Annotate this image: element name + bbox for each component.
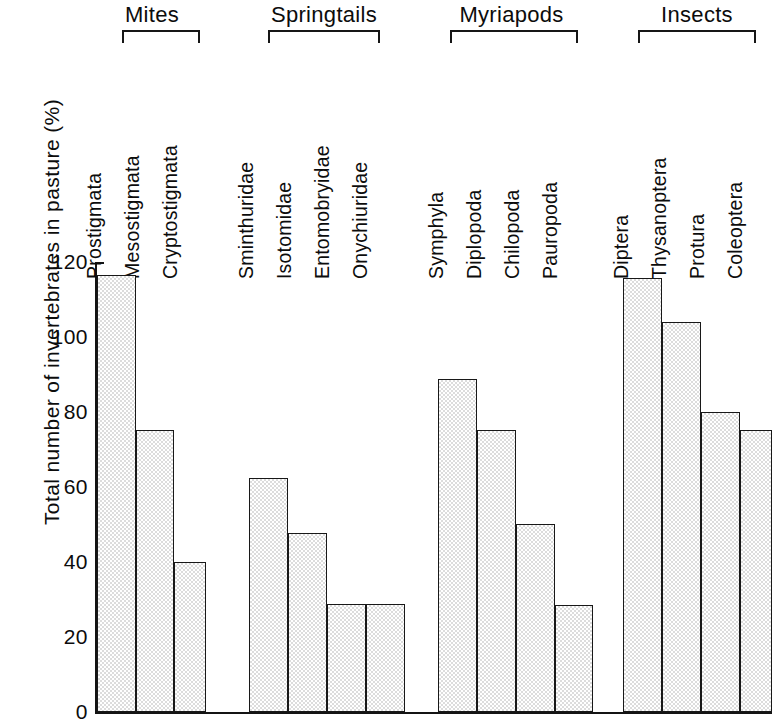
category-label-isotomidae: Isotomidae	[273, 182, 296, 279]
bar-pauropoda	[555, 605, 593, 712]
category-label-diplopoda: Diplopoda	[463, 189, 486, 279]
y-tick-label-100: 100	[26, 325, 88, 349]
category-label-chilopoda: Chilopoda	[501, 189, 524, 279]
group-bracket-myriapods	[450, 30, 578, 43]
bar-sminthuridae	[249, 478, 288, 712]
bar-cryptostigmata	[174, 562, 206, 712]
bar-protura	[701, 412, 740, 712]
group-title-springtails: Springtails	[244, 2, 404, 28]
bar-isotomidae	[288, 533, 327, 712]
bar-chilopoda	[516, 524, 555, 712]
x-axis-line	[95, 712, 772, 714]
y-tick-label-120: 120	[26, 250, 88, 274]
bar-mesostigmata	[136, 430, 174, 712]
category-label-symphyla: Symphyla	[425, 192, 448, 279]
category-label-mesostigmata: Mesostigmata	[121, 155, 144, 279]
bar-thysanoptera	[662, 322, 701, 712]
category-label-coleoptera: Coleoptera	[724, 182, 747, 279]
category-label-cryptostigmata: Cryptostigmata	[159, 145, 182, 279]
bar-diptera	[623, 278, 662, 712]
y-tick-label-40: 40	[26, 550, 88, 574]
group-title-myriapods: Myriapods	[434, 2, 589, 28]
category-label-pauropoda: Pauropoda	[539, 182, 562, 279]
category-label-thysanoptera: Thysanoptera	[648, 157, 671, 279]
bar-entomobryidae	[327, 604, 366, 712]
y-tick-label-60: 60	[26, 475, 88, 499]
y-tick-label-80: 80	[26, 400, 88, 424]
y-tick-label-20: 20	[26, 625, 88, 649]
bar-diplopoda	[477, 430, 516, 712]
bar-onychiuridae	[366, 604, 405, 712]
group-bracket-springtails	[268, 30, 380, 43]
category-label-diptera: Diptera	[610, 215, 633, 279]
group-bracket-mites	[122, 30, 200, 43]
group-title-insects: Insects	[622, 2, 772, 28]
category-label-entomobryidae: Entomobryidae	[311, 145, 334, 279]
category-label-protura: Protura	[686, 214, 709, 279]
group-title-mites: Mites	[97, 2, 207, 28]
category-label-prostigmata: Prostigmata	[83, 173, 106, 279]
bar-symphyla	[438, 379, 477, 712]
bar-chart-figure: Total number of invertebrates in pasture…	[0, 0, 772, 723]
bar-prostigmata	[97, 275, 136, 712]
bar-coleoptera	[740, 430, 772, 712]
category-label-onychiuridae: Onychiuridae	[349, 162, 372, 279]
group-bracket-insects	[638, 30, 756, 43]
category-label-sminthuridae: Sminthuridae	[235, 162, 258, 279]
y-tick-label-0: 0	[26, 700, 88, 723]
